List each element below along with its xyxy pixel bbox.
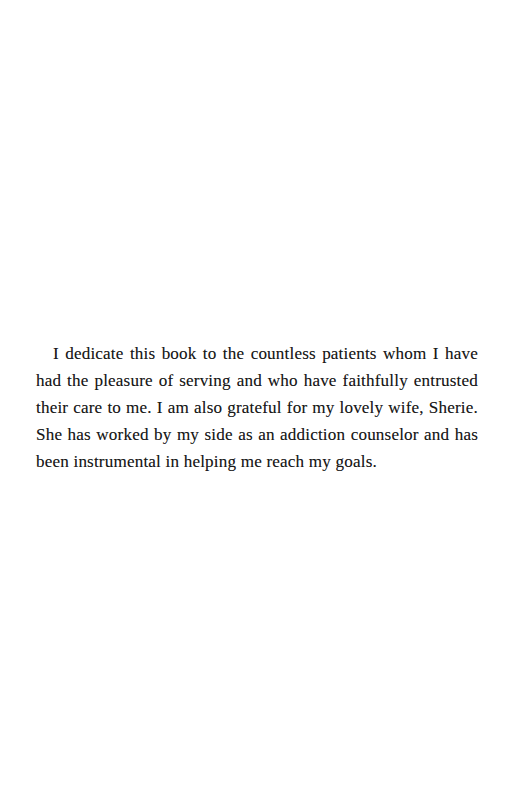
dedication-text-block: I dedicate this book to the countless pa… (36, 340, 478, 475)
dedication-paragraph: I dedicate this book to the countless pa… (36, 340, 478, 475)
document-page: I dedicate this book to the countless pa… (0, 0, 514, 808)
